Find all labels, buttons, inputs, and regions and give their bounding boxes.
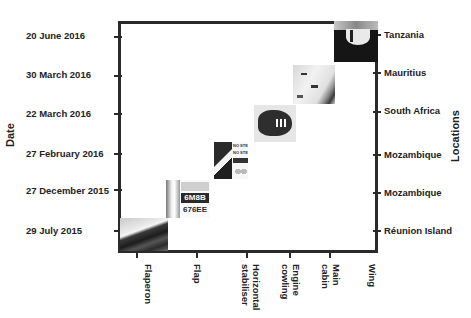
y-tick bbox=[114, 36, 122, 38]
y2-tick bbox=[373, 111, 381, 113]
part-label-engine-cowling: Engine cowling bbox=[280, 264, 302, 299]
x-tick bbox=[246, 250, 248, 258]
thumbnail-wing bbox=[334, 21, 378, 62]
y-tick bbox=[114, 189, 122, 191]
part-label-horizontal-stabiliser: Horizontal stabiliser bbox=[240, 264, 262, 310]
stabiliser-text-1: NO STEP bbox=[233, 143, 248, 148]
flap-plate-top bbox=[181, 182, 209, 191]
cabin-mark-3 bbox=[297, 95, 303, 98]
y-tick bbox=[114, 153, 122, 155]
y2-tick bbox=[373, 154, 381, 156]
y2-tick bbox=[373, 230, 381, 232]
y2-tick bbox=[373, 192, 381, 194]
date-label: 22 March 2016 bbox=[26, 108, 91, 119]
stabiliser-dark-strip bbox=[233, 158, 248, 163]
stabiliser-patterns bbox=[234, 167, 247, 176]
flap-text-2: 676EE bbox=[181, 205, 209, 215]
thumbnail-horizontal-stabiliser: NO STEP NO STEP bbox=[214, 142, 248, 179]
flap-photo bbox=[166, 180, 180, 218]
location-label: South Africa bbox=[384, 105, 440, 116]
date-label: 30 March 2016 bbox=[26, 69, 91, 80]
part-label-flap: Flap bbox=[192, 264, 203, 284]
date-label: 27 December 2015 bbox=[26, 185, 109, 196]
part-label-wing: Wing bbox=[367, 264, 378, 287]
cowling-marks bbox=[276, 119, 288, 127]
location-label: Mauritius bbox=[384, 67, 426, 78]
date-label: 20 June 2016 bbox=[26, 30, 85, 41]
stabiliser-photo bbox=[214, 142, 232, 179]
x-tick bbox=[289, 250, 291, 258]
location-label: Mozambique bbox=[384, 149, 442, 160]
y-tick bbox=[114, 75, 122, 77]
wing-figure bbox=[350, 30, 353, 42]
location-label: Tanzania bbox=[384, 29, 424, 40]
location-label: Réunion Island bbox=[384, 225, 452, 236]
part-label-flaperon: Flaperon bbox=[143, 264, 154, 304]
part-label-main-cabin: Main cabin bbox=[320, 264, 342, 289]
thumbnail-flap: 6M8B 676EE bbox=[166, 180, 210, 218]
cabin-mark-1 bbox=[301, 73, 307, 75]
location-label: Mozambique bbox=[384, 187, 442, 198]
thumbnail-flaperon bbox=[120, 218, 168, 251]
y2-tick bbox=[373, 72, 381, 74]
thumbnail-main-cabin bbox=[293, 65, 335, 104]
cabin-mark-2 bbox=[311, 85, 318, 88]
date-label: 27 February 2016 bbox=[26, 148, 104, 159]
y-tick bbox=[114, 113, 122, 115]
flap-text-1: 6M8B bbox=[181, 193, 209, 203]
x-tick bbox=[196, 250, 198, 258]
y-axis-title-date: Date bbox=[4, 123, 16, 147]
y2-axis-title-locations: Locations bbox=[449, 110, 461, 162]
stabiliser-text-2: NO STEP bbox=[233, 150, 248, 155]
thumbnail-engine-cowling bbox=[254, 105, 296, 142]
x-tick bbox=[136, 250, 138, 258]
x-tick bbox=[329, 250, 331, 258]
date-label: 29 July 2015 bbox=[26, 225, 82, 236]
